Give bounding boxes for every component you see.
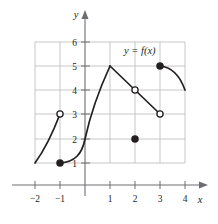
y-axis-arrowhead xyxy=(82,10,89,19)
xtick-label-2: 2 xyxy=(133,194,138,204)
x-axis-arrowhead xyxy=(199,181,208,188)
ytick-label-2: 2 xyxy=(72,135,77,145)
xtick-label-3: 3 xyxy=(158,194,163,204)
function-graph-svg: −2 −1 1 2 3 4 1 2 3 4 5 6 x y xyxy=(0,0,218,224)
open-point-neg1-3 xyxy=(57,111,63,117)
filled-point-3-5 xyxy=(157,63,163,69)
ytick-label-4: 4 xyxy=(72,86,77,96)
function-label: y = f(x) xyxy=(123,45,156,57)
y-axis-label: y xyxy=(73,9,79,20)
xtick-label-1: 1 xyxy=(108,194,113,204)
curve-branch-1 xyxy=(35,114,60,163)
filled-point-neg1-1 xyxy=(57,160,63,166)
filled-point-2-2 xyxy=(132,136,138,142)
xtick-label--2: −2 xyxy=(30,194,40,204)
grid-vertical xyxy=(35,42,185,163)
xtick-label-4: 4 xyxy=(183,194,188,204)
xtick-label--1: −1 xyxy=(55,194,65,204)
y-tick-labels: 1 2 3 4 5 6 xyxy=(72,38,77,169)
x-axis-label: x xyxy=(197,194,203,205)
axes xyxy=(12,18,200,196)
open-point-2-4 xyxy=(132,87,138,93)
ytick-label-6: 6 xyxy=(72,38,77,48)
graph-figure: −2 −1 1 2 3 4 1 2 3 4 5 6 x y xyxy=(0,0,218,224)
ytick-label-3: 3 xyxy=(72,110,77,120)
curve-branch-4 xyxy=(160,66,185,90)
open-point-3-3 xyxy=(157,111,163,117)
x-tick-labels: −2 −1 1 2 3 4 xyxy=(30,194,188,204)
ytick-label-5: 5 xyxy=(72,62,77,72)
